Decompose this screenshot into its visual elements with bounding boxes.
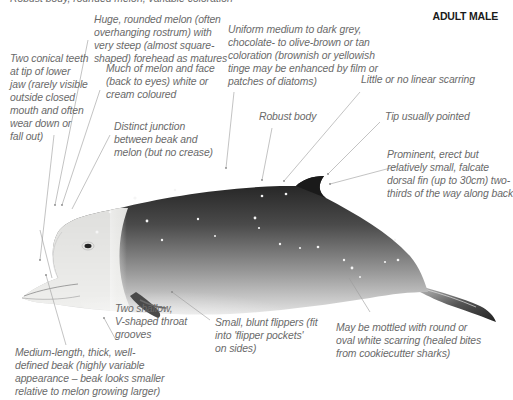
illustration-title: ADULT MALE <box>433 10 498 22</box>
label-flippers: Small, blunt flippers (fitinto 'flipper … <box>215 316 318 355</box>
label-mottled-scarring: May be mottled with round oroval white s… <box>336 321 481 360</box>
label-throat-grooves: Two shallow,V-shaped throatgrooves <box>115 302 187 341</box>
label-junction: Distinct junctionbetween beak andmelon (… <box>114 120 213 159</box>
label-teeth: Two conical teethat tip of lowerjaw (rar… <box>10 52 88 143</box>
eye <box>85 244 92 248</box>
label-fin-tip: Tip usually pointed <box>385 110 470 123</box>
label-robust-body: Robust body <box>259 110 316 123</box>
label-melon: Huge, rounded melon (oftenoverhanging ro… <box>94 13 227 65</box>
label-dorsal-fin: Prominent, erect butrelatively small, fa… <box>387 148 513 200</box>
cropped-header-text: Robust body, rounded melon, variable col… <box>10 0 233 4</box>
label-coloration: Uniform medium to dark grey,chocolate- t… <box>228 23 378 88</box>
label-beak: Medium-length, thick, well-defined beak … <box>15 346 164 398</box>
label-face: Much of melon and face(back to eyes) whi… <box>106 62 215 101</box>
label-scarring: Little or no linear scarring <box>361 73 475 86</box>
